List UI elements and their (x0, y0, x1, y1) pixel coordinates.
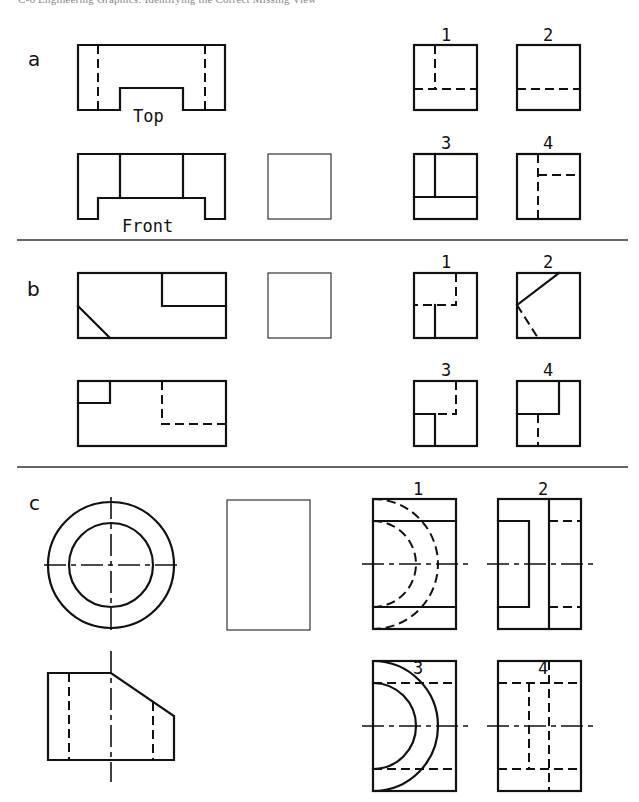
choice-number: 4 (543, 360, 553, 380)
drawing-sheet: a Top Front 1 2 (0, 0, 639, 802)
section-a-front-view: Front (78, 154, 225, 236)
section-a-choice-4[interactable]: 4 (517, 133, 580, 219)
choice-number: 3 (441, 133, 451, 153)
section-c-missing-view-box (227, 500, 310, 630)
section-c-choice-2[interactable]: 2 (487, 479, 593, 629)
section-a: a Top Front 1 2 (28, 25, 580, 236)
section-c-front-view (48, 651, 174, 782)
section-label-a: a (28, 47, 40, 71)
section-b-missing-view-box (268, 273, 331, 338)
section-label-b: b (27, 277, 40, 301)
section-b-choice-1[interactable]: 1 (414, 252, 477, 338)
section-b-front-view (78, 381, 226, 446)
choice-number: 2 (543, 25, 553, 45)
choice-number: 3 (441, 360, 451, 380)
section-b-top-view (78, 273, 226, 338)
view-label-front: Front (122, 216, 173, 236)
choice-number: 2 (543, 252, 553, 272)
section-c-choice-1[interactable]: 1 (362, 479, 468, 629)
choice-number: 1 (441, 252, 451, 272)
choice-number: 4 (543, 133, 553, 153)
view-label-top: Top (133, 106, 164, 126)
choice-number: 1 (441, 25, 451, 45)
section-b: b 1 2 3 (27, 252, 580, 446)
section-a-choice-1[interactable]: 1 (414, 25, 477, 110)
section-c-top-view (44, 497, 178, 633)
choice-number: 1 (413, 479, 423, 499)
section-b-choice-3[interactable]: 3 (414, 360, 477, 446)
section-c-choice-3[interactable]: 3 (362, 658, 468, 791)
section-label-c: c (29, 491, 40, 515)
section-b-choice-2[interactable]: 2 (517, 252, 580, 338)
choice-number: 2 (538, 479, 548, 499)
section-a-choice-3[interactable]: 3 (414, 133, 477, 219)
section-c: c 1 2 (29, 479, 593, 791)
section-a-top-view: Top (78, 45, 225, 126)
section-a-missing-view-box (268, 154, 331, 219)
section-b-choice-4[interactable]: 4 (517, 360, 580, 446)
section-a-choice-2[interactable]: 2 (517, 25, 580, 110)
section-c-choice-4[interactable]: 4 (487, 658, 593, 791)
